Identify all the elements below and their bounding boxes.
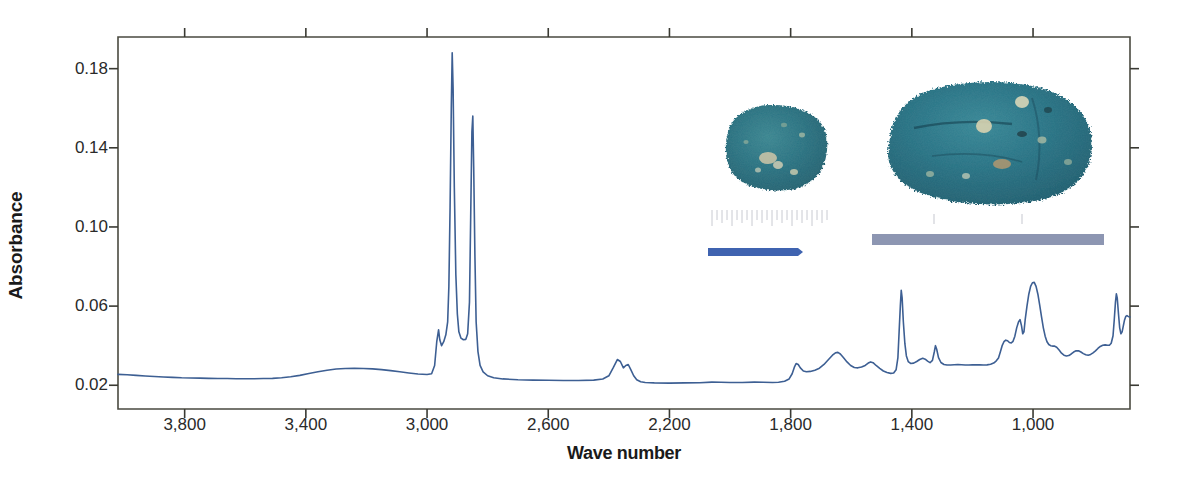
small-sample-svg	[706, 80, 846, 270]
inset-photo-large-sample	[872, 66, 1112, 271]
inclusion	[790, 169, 798, 175]
inclusion	[1015, 96, 1029, 108]
inclusion	[962, 173, 970, 179]
inclusion	[1038, 137, 1047, 144]
inclusion	[993, 159, 1011, 169]
ruler-graduations	[710, 210, 832, 230]
inclusion	[743, 140, 748, 144]
inset-photo-small-sample	[706, 80, 846, 270]
inclusion	[1064, 159, 1072, 165]
ruler-bar	[708, 248, 803, 256]
inclusion	[759, 152, 777, 164]
inclusion	[799, 133, 805, 138]
inclusion	[755, 168, 761, 173]
ruler-bar	[872, 234, 1104, 245]
inclusion	[926, 171, 934, 177]
inclusion	[773, 161, 783, 169]
large-sample-svg	[872, 66, 1112, 271]
ruler-graduations	[934, 214, 1022, 224]
dark-inclusion	[1017, 131, 1027, 137]
ftir-spectrum-figure: Absorbance 0.02 0.06 0.10 0.14 0.18 3,80…	[0, 0, 1179, 491]
dark-inclusion	[1044, 107, 1052, 113]
inclusion	[781, 123, 787, 127]
inclusion	[976, 119, 992, 133]
